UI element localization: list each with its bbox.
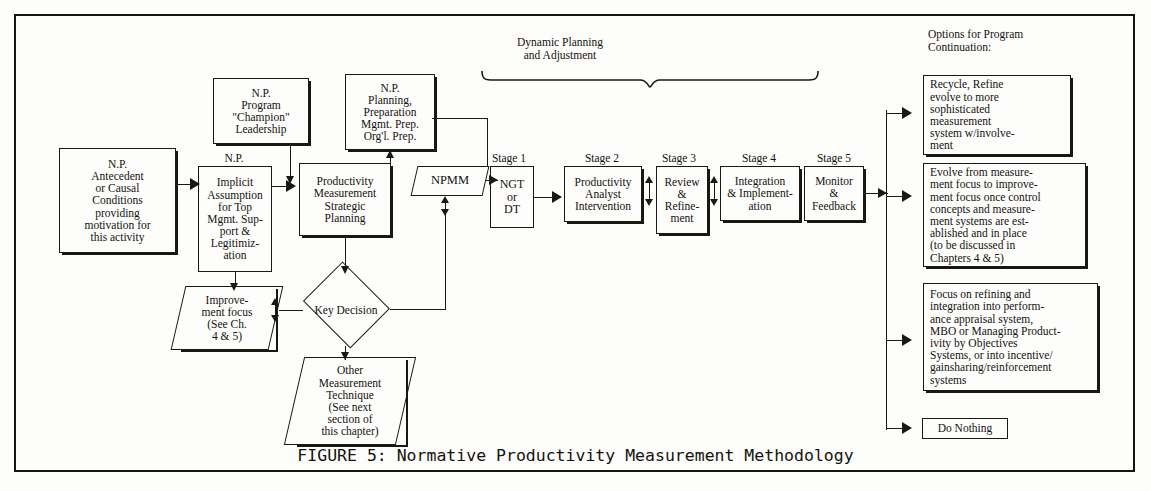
arrowhead-stage3-stage4	[710, 176, 719, 206]
node-stage-2-label: Productivity Analyst Intervention	[565, 176, 641, 213]
node-antecedent: N.P. Antecedent or Causal Conditions pro…	[59, 148, 176, 253]
node-option-3-label: Focus on refining and integration into p…	[924, 288, 1097, 386]
dynamic-planning-label: Dynamic Planning and Adjustment	[470, 36, 650, 62]
node-option-2-label: Evolve from measure- ment focus to impro…	[924, 166, 1085, 264]
figure-page: N.P. Antecedent or Causal Conditions pro…	[0, 0, 1151, 491]
node-npmm-label: NPMM	[414, 174, 486, 187]
node-implicit-assumption: Implicit Assumption for Top Mgmt. Sup- p…	[198, 166, 272, 272]
node-other-technique-label: Other Measurement Technique (See next se…	[294, 364, 406, 437]
arrowhead-npmm-down	[441, 196, 450, 216]
node-stage-4: Integration & Implement- ation	[720, 166, 800, 221]
stage-5-caption: Stage 5	[802, 152, 866, 164]
arrowhead-option-3	[902, 334, 912, 346]
node-option-3: Focus on refining and integration into p…	[923, 283, 1098, 391]
node-npmm: NPMM	[414, 166, 486, 196]
node-stage-1: NGT or DT	[490, 166, 534, 228]
node-stage-3: Review & Refine- ment	[656, 166, 708, 234]
link-keydecision-npmm-h	[390, 309, 446, 310]
arrowhead-option-4	[902, 422, 912, 434]
stage-1-caption: Stage 1	[481, 152, 537, 164]
arrowhead-stage1-stage2	[552, 191, 562, 203]
node-planning-prep: N.P. Planning, Preparation Mgmt. Prep. O…	[345, 74, 435, 150]
node-strategic-planning-label: Productivity Measurement Strategic Plann…	[300, 175, 390, 224]
node-stage-5-label: Monitor & Feedback	[805, 175, 863, 212]
node-stage-5: Monitor & Feedback	[804, 166, 864, 221]
arrowhead-option-2	[902, 190, 912, 202]
options-trunk-line	[886, 110, 887, 430]
node-option-2: Evolve from measure- ment focus to impro…	[923, 163, 1086, 267]
node-other-technique: Other Measurement Technique (See next se…	[294, 357, 406, 445]
node-stage-4-label: Integration & Implement- ation	[721, 175, 799, 212]
options-header: Options for Program Continuation:	[928, 28, 1138, 54]
node-improvement-focus-label: Improve- ment focus (See Ch. 4 & 5)	[178, 294, 276, 343]
node-option-1: Recycle, Refine evolve to more sophistic…	[923, 75, 1071, 155]
link-keydecision-improvement	[279, 310, 303, 311]
arrowhead-strategic-planningprep	[386, 150, 394, 158]
node-option-1-label: Recycle, Refine evolve to more sophistic…	[924, 78, 1070, 151]
stage-4-caption: Stage 4	[718, 152, 800, 164]
node-key-decision-label: Key Decision	[315, 304, 378, 317]
dynamic-planning-brace	[480, 68, 820, 90]
node-champion-label: N.P. Program "Champion" Leadership	[214, 87, 308, 136]
node-implicit-title: N.P.	[196, 152, 272, 164]
node-implicit-label: Implicit Assumption for Top Mgmt. Sup- p…	[199, 176, 271, 261]
node-option-4: Do Nothing	[922, 418, 1008, 439]
node-stage-1-label: NGT or DT	[491, 178, 533, 216]
arrowhead-stage2-stage3	[645, 176, 654, 206]
arrowhead-into-strategic	[286, 180, 296, 192]
node-planning-prep-label: N.P. Planning, Preparation Mgmt. Prep. O…	[346, 82, 434, 143]
link-planningprep-stage1-h	[432, 118, 488, 119]
node-stage-3-label: Review & Refine- ment	[657, 176, 707, 225]
arrowhead-option-1	[902, 107, 912, 119]
stage-2-caption: Stage 2	[560, 152, 644, 164]
node-option-4-label: Do Nothing	[923, 422, 1007, 434]
stage-3-caption: Stage 3	[648, 152, 710, 164]
node-key-decision: Key Decision	[300, 272, 392, 348]
node-strategic-planning: Productivity Measurement Strategic Plann…	[299, 163, 391, 236]
figure-caption: FIGURE 5: Normative Productivity Measure…	[0, 446, 1151, 465]
node-champion: N.P. Program "Champion" Leadership	[213, 78, 309, 144]
node-improvement-focus: Improve- ment focus (See Ch. 4 & 5)	[178, 286, 276, 350]
link-champion-strategic	[290, 144, 291, 180]
node-stage-2: Productivity Analyst Intervention	[564, 166, 642, 222]
node-antecedent-label: N.P. Antecedent or Causal Conditions pro…	[60, 158, 175, 243]
link-keydecision-npmm-v	[445, 206, 446, 310]
